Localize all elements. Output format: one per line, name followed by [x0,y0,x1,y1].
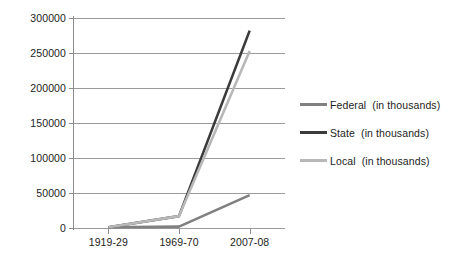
y-tick-label: 150000 [30,117,66,129]
y-tick-label: 200000 [30,82,66,94]
y-tick-mark [69,123,74,124]
y-tick-mark [69,88,74,89]
series-line-federal [108,195,249,227]
series-lines [73,18,285,228]
x-tick-label: 1969-70 [159,236,198,248]
legend-label: Federal (in thousands) [330,99,440,111]
y-tick-label: 0 [60,222,66,234]
y-tick-label: 250000 [30,47,66,59]
y-tick-mark [69,228,74,229]
x-tick-label: 1919-29 [89,236,128,248]
legend-label: State (in thousands) [330,127,429,139]
series-line-local [108,51,249,227]
series-line-state [108,31,249,228]
x-tick-mark [108,229,109,234]
y-tick-mark [69,53,74,54]
y-tick-mark [69,193,74,194]
y-axis-labels: 050000100000150000200000250000300000 [0,0,66,259]
y-tick-label: 100000 [30,152,66,164]
x-tick-mark [179,229,180,234]
y-tick-label: 50000 [36,187,66,199]
legend-item-state[interactable]: State (in thousands) [300,126,440,139]
line-chart: 050000100000150000200000250000300000 191… [0,0,460,259]
y-tick-mark [69,158,74,159]
plot-area [73,18,285,228]
chart-legend: Federal (in thousands)State (in thousand… [300,98,440,167]
legend-label: Local (in thousands) [330,155,430,167]
legend-swatch-icon [300,131,327,134]
y-tick-mark [69,18,74,19]
legend-swatch-icon [300,159,327,162]
x-tick-label: 2007-08 [230,236,269,248]
legend-swatch-icon [300,103,327,106]
x-tick-mark [250,229,251,234]
legend-item-federal[interactable]: Federal (in thousands) [300,98,440,111]
legend-item-local[interactable]: Local (in thousands) [300,154,440,167]
y-tick-label: 300000 [30,12,66,24]
